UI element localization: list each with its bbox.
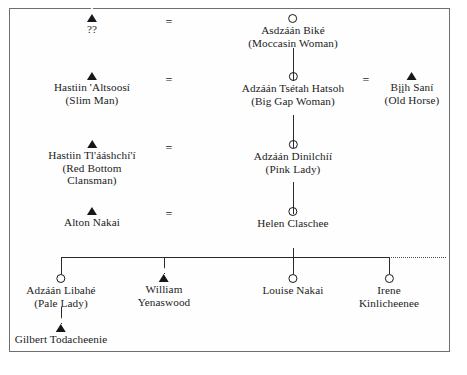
sibship-bar-continuation-dotted bbox=[389, 257, 446, 258]
person-gloss-line: (Pale Lady) bbox=[26, 297, 95, 310]
person-gloss-line: (Pink Lady) bbox=[254, 163, 332, 176]
person-gloss-line-2: Clansman) bbox=[48, 174, 136, 187]
person-node-g4-husband[interactable]: Alton Nakai bbox=[64, 207, 120, 229]
person-node-g4-wife[interactable]: Helen Claschee bbox=[257, 207, 328, 230]
child-drop-line-4 bbox=[389, 257, 390, 274]
person-name-line: Alton Nakai bbox=[64, 216, 120, 229]
person-node-g1-husband[interactable]: ?? bbox=[87, 14, 97, 36]
person-name-line: ?? bbox=[87, 23, 97, 36]
person-name-line: Louise Nakai bbox=[262, 284, 323, 297]
person-name-line-2: Yenaswood bbox=[138, 296, 191, 309]
male-triangle-icon bbox=[159, 274, 169, 282]
marriage-symbol-g3: = bbox=[166, 141, 173, 156]
person-node-g2-husband[interactable]: Hastiin 'Altsoosí (Slim Man) bbox=[54, 72, 130, 106]
female-circle-icon bbox=[288, 14, 297, 23]
person-node-g2-wife[interactable]: Adzáán Tsétah Hatsoh (Big Gap Woman) bbox=[242, 72, 344, 107]
child-drop-line-1 bbox=[61, 257, 62, 274]
person-gloss-line: (Old Horse) bbox=[385, 94, 440, 107]
person-node-g5-child1[interactable]: Adzáán Libahé (Pale Lady) bbox=[26, 274, 95, 309]
male-triangle-icon bbox=[87, 72, 97, 80]
marriage-symbol-g2: = bbox=[166, 73, 173, 88]
person-name-line: Asdzáán Biké bbox=[248, 24, 338, 37]
person-name-line: Irene bbox=[359, 284, 419, 297]
female-circle-icon bbox=[288, 207, 297, 216]
person-node-g2-husband2[interactable]: Bįįh Saní (Old Horse) bbox=[385, 72, 440, 106]
person-name-line: Hastiin 'Altsoosí bbox=[54, 81, 130, 94]
person-node-g5-child3[interactable]: Louise Nakai bbox=[262, 274, 323, 297]
person-node-g5-child2[interactable]: William Yenaswood bbox=[138, 274, 191, 308]
male-triangle-icon bbox=[407, 72, 417, 80]
person-node-g3-husband[interactable]: Hastiin Tl'ááshchí'í (Red Bottom Clansma… bbox=[48, 140, 136, 187]
person-name-line: William bbox=[138, 283, 191, 296]
marriage-symbol-g4: = bbox=[166, 207, 173, 222]
person-name-line: Adzáán Libahé bbox=[26, 284, 95, 297]
person-node-g5-child4[interactable]: Irene Kinlicheenee bbox=[359, 274, 419, 309]
kinship-chart: = = = = = ?? Asdzáán Biké (Moccasin Woma… bbox=[0, 0, 467, 375]
person-name-line: Bįįh Saní bbox=[385, 81, 440, 94]
male-triangle-icon bbox=[87, 207, 97, 215]
marriage-symbol-g1: = bbox=[166, 15, 173, 30]
person-gloss-line: (Big Gap Woman) bbox=[242, 95, 344, 108]
person-node-g3-wife[interactable]: Adzáán Dinilchíí (Pink Lady) bbox=[254, 140, 332, 175]
sibship-bar bbox=[61, 257, 389, 258]
female-circle-icon bbox=[288, 274, 297, 283]
person-gloss-line: (Red Bottom bbox=[48, 162, 136, 175]
marriage-symbol-g2-second: = bbox=[363, 73, 370, 88]
female-circle-icon bbox=[289, 140, 298, 149]
male-triangle-icon bbox=[87, 14, 97, 22]
female-circle-icon bbox=[288, 72, 297, 81]
person-node-g6-child1[interactable]: Gilbert Todacheenie bbox=[15, 324, 108, 346]
female-circle-icon bbox=[385, 274, 394, 283]
person-gloss-line: (Moccasin Woman) bbox=[248, 37, 338, 50]
person-name-line-2: Kinlicheenee bbox=[359, 297, 419, 310]
person-name-line: Adzáán Dinilchíí bbox=[254, 150, 332, 163]
person-gloss-line: (Slim Man) bbox=[54, 94, 130, 107]
female-circle-icon bbox=[56, 274, 65, 283]
person-name-line: Adzáán Tsétah Hatsoh bbox=[242, 82, 344, 95]
person-node-g1-wife[interactable]: Asdzáán Biké (Moccasin Woman) bbox=[248, 14, 338, 49]
person-name-line: Hastiin Tl'ááshchí'í bbox=[48, 149, 136, 162]
male-triangle-icon bbox=[87, 140, 97, 148]
descent-line-g4-sibship bbox=[293, 248, 294, 257]
male-triangle-icon bbox=[56, 324, 66, 332]
person-name-line: Gilbert Todacheenie bbox=[15, 333, 108, 346]
person-name-line: Helen Claschee bbox=[257, 217, 328, 230]
child-drop-line-3 bbox=[293, 257, 294, 274]
